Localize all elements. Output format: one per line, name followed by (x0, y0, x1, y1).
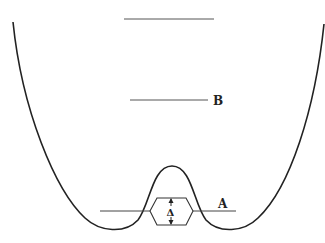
double-well-potential-diagram: B A Δ (0, 0, 325, 243)
label-b: B (213, 94, 223, 108)
arrow-up-icon (169, 198, 174, 203)
label-delta: Δ (167, 207, 175, 218)
arrow-down-icon (169, 220, 174, 225)
label-a: A (217, 197, 228, 211)
